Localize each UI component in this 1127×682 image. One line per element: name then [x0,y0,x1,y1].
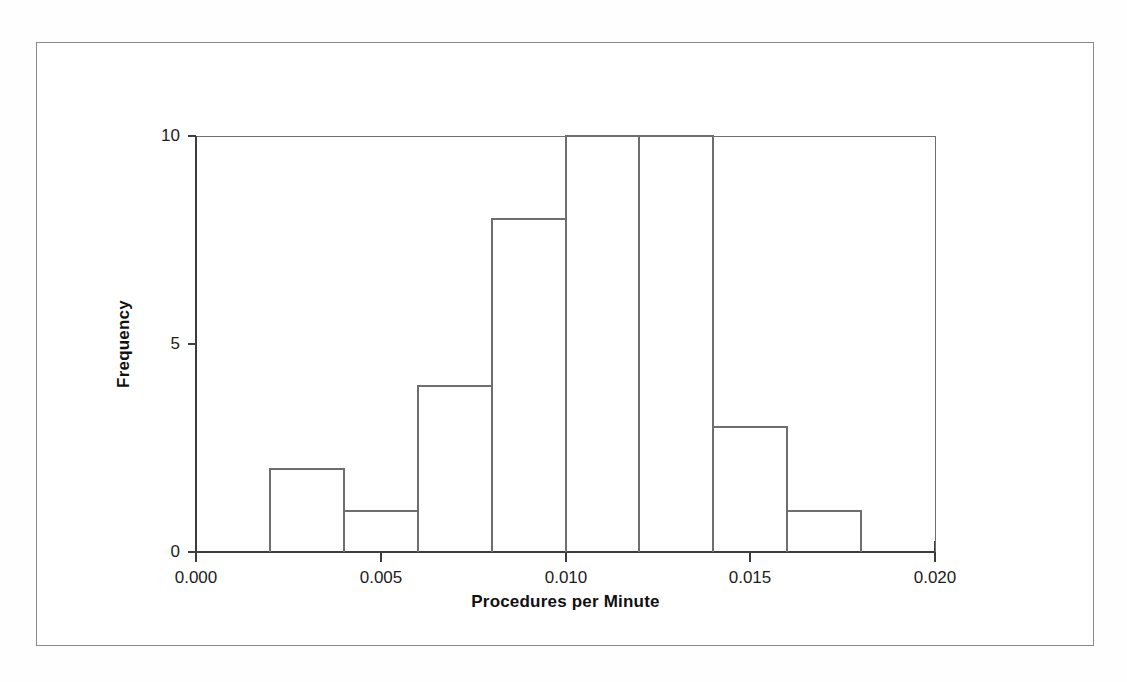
x-tick-label-4: 0.020 [914,568,957,588]
bar-0.008-0.010 [492,219,566,552]
bar-0.016-0.018 [787,511,861,552]
x-tick-label-2: 0.010 [545,568,588,588]
page-canvas: 10 5 0 0.000 0.005 0.010 0.015 0.020 Pro… [0,0,1127,682]
x-tick-label-1: 0.005 [360,568,403,588]
bar-0.010-0.012 [566,136,639,552]
bar-0.014-0.016 [713,427,787,552]
x-axis-title: Procedures per Minute [196,592,935,612]
y-tick-label-5: 5 [140,334,180,354]
bar-0.002-0.004 [270,469,344,552]
y-tick-label-0: 0 [140,542,180,562]
x-tick-label-3: 0.015 [729,568,772,588]
bar-0.004-0.006 [344,511,418,552]
y-axis-title: Frequency [114,300,134,388]
y-tick-label-10: 10 [140,126,180,146]
histogram-bars [270,136,861,552]
bar-0.012-0.014 [639,136,713,552]
bar-0.006-0.008 [418,386,492,552]
x-tick-label-0: 0.000 [175,568,218,588]
